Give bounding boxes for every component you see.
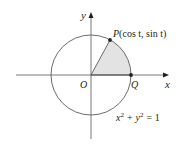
point-p-dot bbox=[108, 38, 112, 42]
circle-equation: x2+y2= 1 bbox=[115, 111, 160, 123]
point-p-label: P(cos t, sin t) bbox=[112, 28, 166, 40]
shaded-sector bbox=[91, 40, 131, 75]
point-q-label: Q bbox=[131, 79, 139, 90]
x-axis-label: x bbox=[164, 78, 170, 90]
point-p-name: P bbox=[112, 28, 119, 39]
y-axis-arrow-icon bbox=[89, 12, 94, 18]
equation-rhs: = 1 bbox=[147, 112, 160, 123]
unit-circle-diagram: y x O Q P(cos t, sin t) x2+y2= 1 bbox=[0, 0, 179, 147]
equation-x-exponent: 2 bbox=[120, 111, 124, 119]
origin-label: O bbox=[80, 79, 87, 90]
point-p-coords: (cos t, sin t) bbox=[119, 28, 166, 40]
y-axis-label: y bbox=[80, 9, 86, 21]
equation-plus: + bbox=[127, 112, 133, 123]
point-q-dot bbox=[129, 73, 133, 77]
equation-y-exponent: 2 bbox=[140, 111, 144, 119]
x-axis-arrow-icon bbox=[163, 73, 169, 78]
